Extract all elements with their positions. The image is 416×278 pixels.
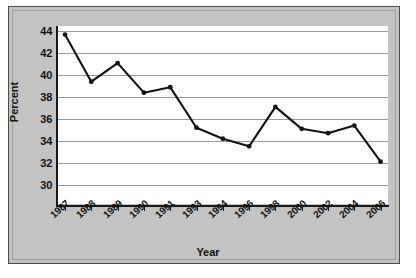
- y-axis-tick-label: 40: [26, 69, 52, 81]
- gridline: [57, 185, 388, 186]
- y-axis-tick-labels: 3032343638404244: [24, 0, 52, 278]
- y-axis-tick-label: 38: [26, 91, 52, 103]
- y-axis-line: [56, 26, 58, 207]
- y-axis-tick-label: 42: [26, 47, 52, 59]
- x-axis-title: Year: [0, 246, 416, 258]
- gridline: [57, 163, 388, 164]
- plot-area: [57, 26, 388, 204]
- gridline: [57, 119, 388, 120]
- gridline: [57, 75, 388, 76]
- gridline: [57, 31, 388, 32]
- y-axis-title: Percent: [8, 82, 20, 122]
- y-axis-tick-label: 34: [26, 135, 52, 147]
- gridline: [57, 97, 388, 98]
- gridline: [57, 141, 388, 142]
- gridline: [57, 53, 388, 54]
- y-axis-tick-label: 44: [26, 25, 52, 37]
- y-axis-tick-label: 36: [26, 113, 52, 125]
- y-axis-tick-label: 30: [26, 179, 52, 191]
- y-axis-tick-label: 32: [26, 157, 52, 169]
